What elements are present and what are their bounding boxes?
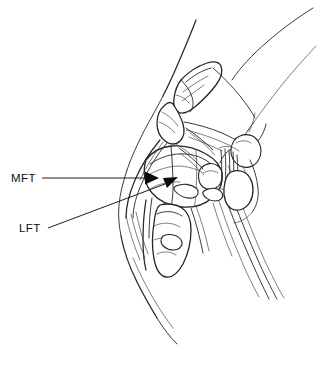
posterior-condyle-block	[224, 171, 253, 211]
label-lft: LFT	[19, 222, 41, 234]
anatomical-figure: MFT LFT	[0, 0, 317, 379]
label-mft: MFT	[11, 172, 36, 184]
knee-joint-drawing: MFT LFT	[0, 0, 317, 379]
